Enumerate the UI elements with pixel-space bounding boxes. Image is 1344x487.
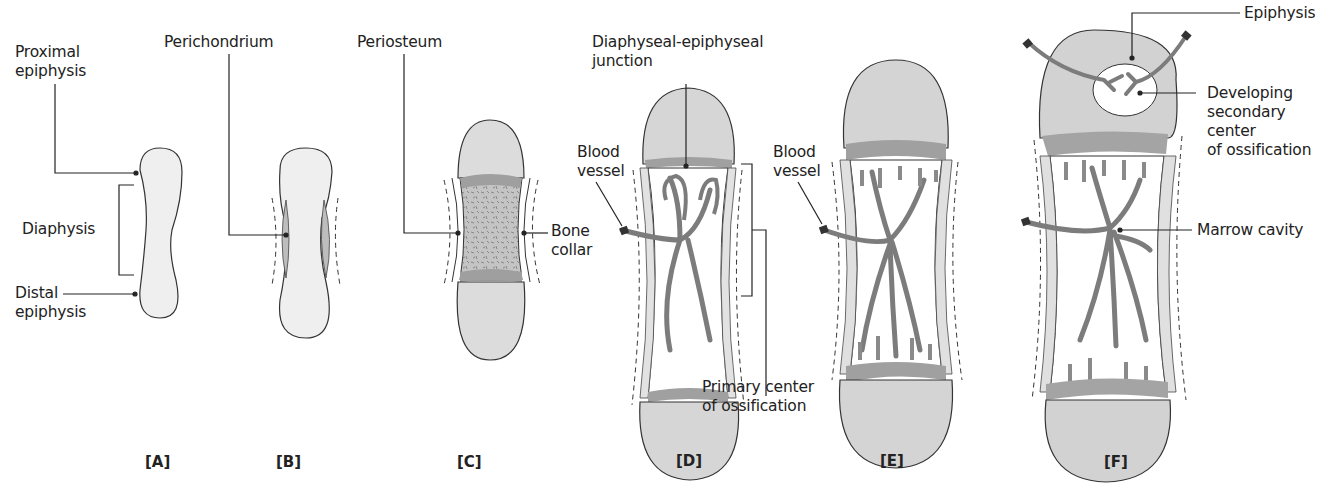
label-primary-center-of-ossification: Primary center of ossification <box>702 378 814 416</box>
panel-label-d: [D] <box>676 452 702 470</box>
stage-b-leaders <box>229 54 288 237</box>
stage-e-leaders <box>798 182 822 224</box>
label-diaphyseal-epiphyseal-junction: Diaphyseal-epiphyseal junction <box>592 33 763 71</box>
stage-a-leaders <box>55 84 138 296</box>
label-periosteum: Periosteum <box>357 33 442 52</box>
label-distal-epiphysis: Distal epiphysis <box>15 284 86 322</box>
label-diaphysis: Diaphysis <box>22 220 95 239</box>
panel-label-f: [F] <box>1104 453 1128 471</box>
panel-label-b: [B] <box>276 453 301 471</box>
label-blood-vessel-e: Blood vessel <box>773 143 821 181</box>
label-blood-vessel-d: Blood vessel <box>577 143 625 181</box>
label-epiphysis: Epiphysis <box>1244 4 1315 23</box>
stage-f-bone-model <box>1021 30 1192 482</box>
stage-a-cartilage-model <box>140 148 182 318</box>
label-developing-secondary-center: Developing secondary center of ossificat… <box>1207 84 1311 160</box>
label-bone-collar: Bone collar <box>551 222 592 260</box>
stage-e-bone-model <box>819 60 962 468</box>
stage-b-cartilage-model <box>272 148 340 338</box>
panel-label-a: [A] <box>145 453 170 471</box>
bone-development-diagram <box>0 0 1344 487</box>
stage-d-bone-model <box>619 88 744 480</box>
stage-c-bone-model <box>444 120 540 360</box>
label-perichondrium: Perichondrium <box>164 33 274 52</box>
panel-label-c: [C] <box>457 453 482 471</box>
label-marrow-cavity: Marrow cavity <box>1197 221 1303 240</box>
panel-label-e: [E] <box>880 452 904 470</box>
label-proximal-epiphysis: Proximal epiphysis <box>15 43 86 81</box>
